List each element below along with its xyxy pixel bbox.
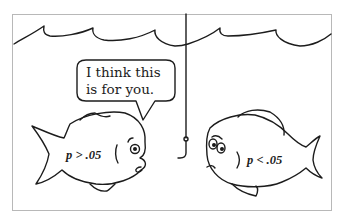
- fish-right-label: p < .05: [247, 153, 282, 168]
- cartoon-scene: [0, 0, 343, 221]
- water-waves: [14, 26, 331, 46]
- speech-bubble-text: I think this is for you.: [86, 64, 176, 98]
- fishing-hook: [178, 141, 186, 158]
- fish-left-label: p > .05: [66, 148, 101, 163]
